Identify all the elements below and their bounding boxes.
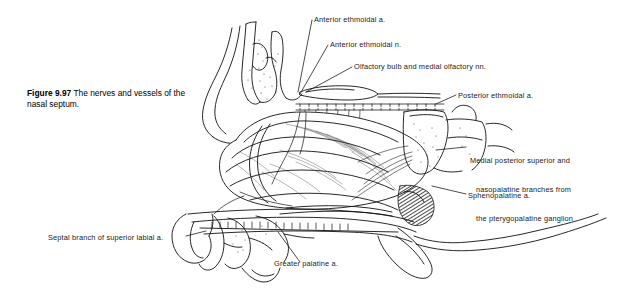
label-medial-line-1: Medial posterior superior and bbox=[470, 156, 573, 166]
label-olfactory-bulb: Olfactory bulb and medial olfactory nn. bbox=[354, 62, 486, 72]
label-anterior-ethmoidal-artery: Anterior ethmoidal a. bbox=[314, 15, 385, 25]
leader-posterior-ethmoidal bbox=[436, 95, 456, 104]
label-posterior-ethmoidal-artery: Posterior ethmoidal a. bbox=[458, 91, 533, 101]
nasal-dorsum-profile bbox=[202, 26, 243, 143]
frontal-bone-region bbox=[242, 22, 302, 104]
figure-caption: Figure 9.97 The nerves and vessels of th… bbox=[27, 88, 199, 111]
leader-anterior-ethmoidal-a bbox=[298, 20, 312, 92]
label-greater-palatine-artery: Greater palatine a. bbox=[274, 259, 338, 269]
label-medial-line-3: the pterygopalatine ganglion bbox=[470, 214, 573, 224]
figure-number: Figure 9.97 bbox=[27, 88, 71, 98]
figure-nasal-septum: Figure 9.97 The nerves and vessels of th… bbox=[0, 0, 617, 292]
leader-medial-posterior bbox=[436, 147, 466, 150]
cribriform-plate bbox=[296, 104, 444, 110]
olfactory-bulb bbox=[300, 86, 440, 100]
leader-sphenopalatine bbox=[432, 186, 466, 194]
label-septal-branch-superior-labial: Septal branch of superior labial a. bbox=[48, 233, 163, 243]
septal-cartilage bbox=[220, 112, 429, 210]
upper-lip-and-incisors bbox=[172, 214, 314, 282]
label-medial-posterior-branches: Medial posterior superior and nasopalati… bbox=[470, 137, 573, 243]
pterygoid-hatching bbox=[398, 185, 434, 225]
label-sphenopalatine-artery: Sphenopalatine a. bbox=[468, 191, 530, 201]
label-anterior-ethmoidal-nerve: Anterior ethmoidal n. bbox=[330, 40, 401, 50]
leader-septal-branch bbox=[186, 231, 206, 236]
